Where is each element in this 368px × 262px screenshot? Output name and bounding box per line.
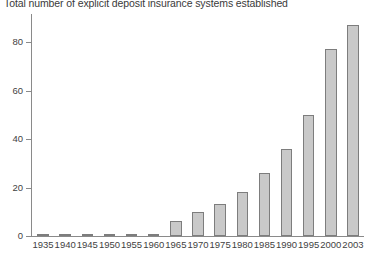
bar — [37, 234, 49, 237]
x-axis-line — [31, 236, 364, 237]
bar — [148, 234, 160, 237]
bar — [259, 173, 271, 236]
bar — [170, 221, 182, 236]
y-axis-tick — [26, 236, 32, 237]
bar — [347, 25, 359, 236]
y-axis-tick — [26, 188, 32, 189]
bar-chart: Total number of explicit deposit insuran… — [0, 0, 368, 262]
bar — [325, 49, 337, 236]
bar — [82, 234, 94, 237]
y-axis-tick-label: 60 — [0, 86, 23, 96]
y-axis-line — [31, 14, 32, 236]
y-axis-tick-label: 80 — [0, 37, 23, 47]
bar — [214, 204, 226, 236]
chart-title: Total number of explicit deposit insuran… — [4, 0, 288, 9]
bar — [104, 234, 116, 237]
bar — [237, 192, 249, 236]
x-axis-tick-label: 2003 — [337, 240, 368, 250]
bar — [281, 149, 293, 236]
bar — [59, 234, 71, 237]
y-axis-tick — [26, 42, 32, 43]
y-axis-tick-label: 40 — [0, 134, 23, 144]
y-axis-tick-label: 20 — [0, 183, 23, 193]
y-axis-tick — [26, 91, 32, 92]
bar — [192, 212, 204, 236]
y-axis-tick-label: 0 — [0, 231, 23, 241]
bar — [303, 115, 315, 236]
bar — [126, 234, 138, 237]
y-axis-tick — [26, 139, 32, 140]
